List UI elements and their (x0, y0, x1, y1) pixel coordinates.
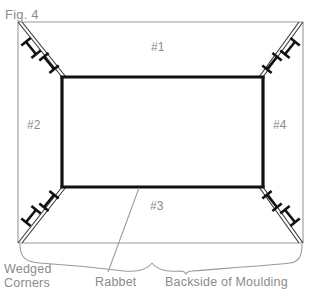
figure-title: Fig. 4 (5, 8, 39, 23)
wedge-stem (26, 210, 36, 222)
wedged-corners-line-2: Corners (4, 276, 50, 290)
mitre-line-bottom-left-inner (22, 187, 66, 243)
wedge-stem (44, 57, 54, 69)
part-label-1: #1 (151, 41, 165, 54)
rabbet-rectangle (62, 77, 263, 187)
wedged-corners-label: WedgedCorners (4, 262, 52, 290)
part-label-2: #2 (27, 119, 41, 132)
backside-of-moulding-brace (152, 244, 302, 274)
wedge-stem (285, 42, 295, 54)
rabbet-label: Rabbet (95, 275, 137, 289)
figure-page: Fig. 4 #1 #2 #3 #4 WedgedCorners Rabbet … (0, 0, 316, 295)
wedge-bottom-right-inner (262, 191, 281, 211)
mitre-line-top-left-inner (22, 22, 66, 77)
part-label-3: #3 (150, 200, 164, 213)
backside-of-moulding-label: Backside of Moulding (165, 275, 288, 289)
part-label-4: #4 (273, 119, 287, 132)
rabbet-leader-line (108, 188, 139, 272)
wedge-stem (44, 195, 54, 207)
wedge-stem (26, 42, 36, 54)
wedged-corners-line-1: Wedged (4, 262, 52, 276)
wedge-top-right-outer (280, 38, 299, 58)
